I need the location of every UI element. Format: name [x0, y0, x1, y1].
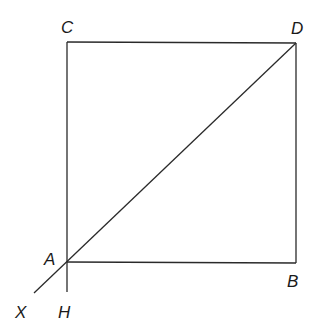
segment-ab [67, 262, 296, 263]
label-c: C [61, 18, 74, 37]
segment-dx [34, 43, 296, 293]
label-h: H [58, 303, 71, 322]
label-a: A [43, 250, 55, 269]
segment-cd [67, 42, 296, 43]
label-d: D [291, 19, 303, 38]
label-b: B [287, 272, 298, 291]
geometry-diagram: C D A B X H [0, 0, 328, 333]
label-x: X [14, 303, 27, 322]
